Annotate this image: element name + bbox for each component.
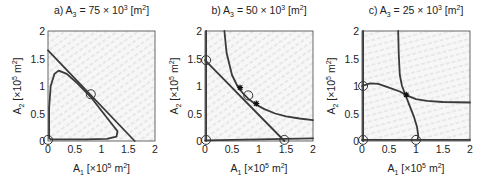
panel-a: 00.511.5200.511.52a) A3 = 75 × 103 [m2]A… xyxy=(11,4,158,176)
y-tick-label: 0 xyxy=(353,135,359,147)
x-tick-label: 1.5 xyxy=(121,143,136,155)
x-tick-label: 1 xyxy=(99,143,105,155)
x-tick-label: 1 xyxy=(256,143,262,155)
y-tick-label: 0 xyxy=(196,135,202,147)
x-tick-label: 0 xyxy=(45,143,51,155)
y-tick-label: 1 xyxy=(196,80,202,92)
y-tick-label: 0.5 xyxy=(30,108,45,120)
x-tick-label: 1.5 xyxy=(279,143,294,155)
y-tick-label: 0.5 xyxy=(187,108,202,120)
y-tick-label: 0.5 xyxy=(344,108,359,120)
x-tick-label: 0 xyxy=(359,143,365,155)
y-tick-label: 1.5 xyxy=(344,53,359,65)
x-tick-label: 1.5 xyxy=(436,143,451,155)
y-axis-label: A2 [×105 m2] xyxy=(168,57,182,114)
x-tick-label: 2 xyxy=(152,143,158,155)
panel-title: a) A3 = 75 × 103 [m2] xyxy=(54,4,149,18)
equilibrium-star xyxy=(403,92,409,98)
x-tick-label: 0 xyxy=(202,143,208,155)
y-axis-label: A2 [×105 m2] xyxy=(325,57,339,114)
y-tick-label: 2 xyxy=(39,25,45,37)
vector-field xyxy=(48,31,155,141)
x-axis-label: A1 [×105 m2] xyxy=(73,162,130,176)
y-tick-label: 0 xyxy=(39,135,45,147)
equilibrium-star xyxy=(237,85,243,91)
y-tick-label: 1.5 xyxy=(187,53,202,65)
x-axis-label: A1 [×105 m2] xyxy=(388,162,445,176)
x-tick-label: 0.5 xyxy=(67,143,82,155)
y-tick-label: 1.5 xyxy=(30,53,45,65)
x-tick-label: 2 xyxy=(467,143,473,155)
y-tick-label: 2 xyxy=(196,25,202,37)
y-tick-label: 1 xyxy=(39,80,45,92)
y-axis-label: A2 [×105 m2] xyxy=(11,57,25,114)
x-tick-label: 0.5 xyxy=(225,143,240,155)
figure: 00.511.5200.511.52a) A3 = 75 × 103 [m2]A… xyxy=(0,0,487,182)
x-axis-label: A1 [×105 m2] xyxy=(231,162,288,176)
panel-c: 00.511.5200.511.52c) A3 = 25 × 103 [m2]A… xyxy=(325,4,473,176)
x-tick-label: 2 xyxy=(310,143,316,155)
y-tick-label: 2 xyxy=(353,25,359,37)
equilibrium-star xyxy=(253,101,259,107)
panel-b: 00.511.5200.511.52b) A3 = 50 × 103 [m2]A… xyxy=(168,4,316,176)
x-tick-label: 0.5 xyxy=(382,143,397,155)
panel-title: b) A3 = 50 × 103 [m2] xyxy=(211,4,306,18)
x-tick-label: 1 xyxy=(413,143,419,155)
vector-field xyxy=(205,31,313,141)
y-tick-label: 1 xyxy=(353,80,359,92)
panel-title: c) A3 = 25 × 103 [m2] xyxy=(369,4,464,18)
